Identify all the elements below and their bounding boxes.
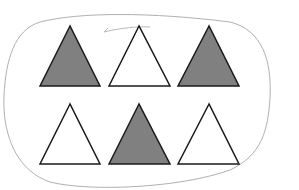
pen-stroke xyxy=(104,27,150,32)
row-1 xyxy=(40,26,239,86)
triangle-diagram xyxy=(0,0,299,190)
triangle-shaded xyxy=(40,26,100,86)
row-2 xyxy=(40,104,239,164)
triangle-unshaded xyxy=(40,104,100,164)
triangle-shaded xyxy=(109,104,170,164)
triangle-shaded xyxy=(178,26,239,86)
triangle-unshaded xyxy=(109,26,170,86)
triangle-unshaded xyxy=(178,104,239,164)
